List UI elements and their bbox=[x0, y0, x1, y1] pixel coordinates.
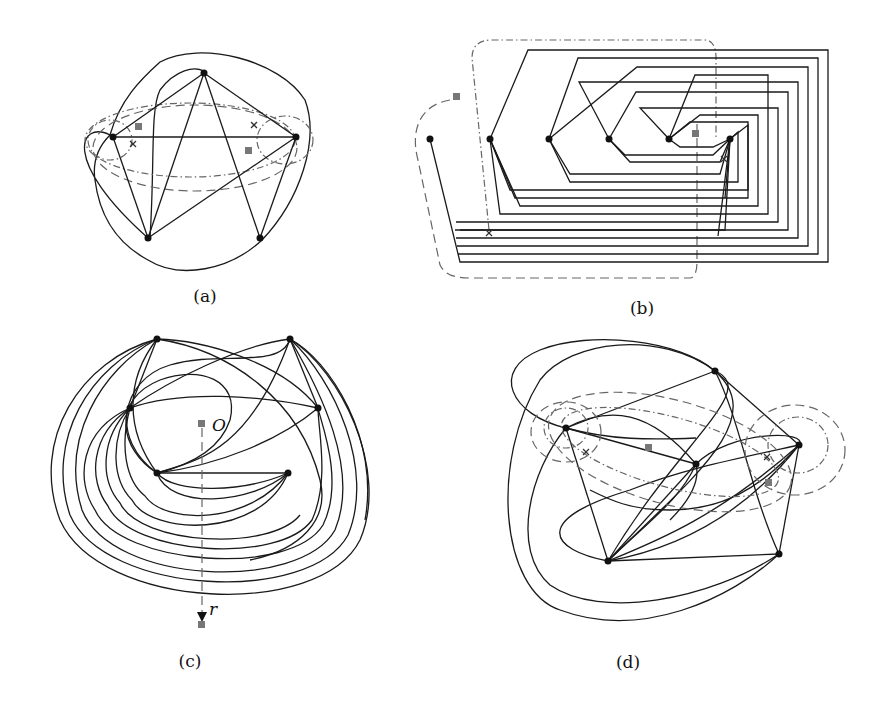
nested-curves bbox=[51, 339, 369, 594]
cross-marker bbox=[486, 230, 492, 236]
nested-edges bbox=[430, 50, 828, 262]
curves bbox=[508, 340, 800, 621]
ray-endpoint-square bbox=[198, 621, 205, 628]
vertex bbox=[712, 368, 719, 375]
vertex bbox=[127, 405, 134, 412]
dashed-circle-left bbox=[531, 402, 601, 462]
caption-b: (b) bbox=[612, 298, 672, 318]
dashdot-region bbox=[472, 40, 716, 230]
square-marker bbox=[692, 130, 699, 137]
vertex bbox=[427, 136, 434, 143]
panel-c: O r (c) bbox=[0, 320, 430, 711]
origin-label: O bbox=[212, 415, 226, 435]
vertex bbox=[154, 470, 161, 477]
panel-b: (b) bbox=[0, 0, 871, 320]
square-marker bbox=[645, 444, 652, 451]
vertex bbox=[693, 461, 700, 468]
panel-b-drawing bbox=[0, 0, 871, 320]
ray-label: r bbox=[209, 599, 218, 619]
vertex bbox=[287, 336, 294, 343]
square-marker bbox=[453, 93, 460, 100]
origin-square bbox=[198, 420, 205, 427]
vertex bbox=[606, 136, 613, 143]
vertex bbox=[563, 425, 570, 432]
vertex bbox=[546, 136, 553, 143]
square-marker bbox=[765, 479, 772, 486]
vertex bbox=[315, 405, 322, 412]
vertex bbox=[605, 558, 612, 565]
vertex bbox=[776, 551, 783, 558]
vertex bbox=[487, 136, 494, 143]
caption-d: (d) bbox=[598, 652, 658, 672]
ray-arrowhead bbox=[197, 612, 207, 622]
vertex bbox=[666, 136, 673, 143]
caption-c: (c) bbox=[160, 651, 220, 671]
vertex bbox=[727, 136, 734, 143]
vertex bbox=[796, 442, 803, 449]
panel-d: (d) bbox=[430, 320, 871, 711]
vertex bbox=[285, 470, 292, 477]
vertex bbox=[154, 336, 161, 343]
